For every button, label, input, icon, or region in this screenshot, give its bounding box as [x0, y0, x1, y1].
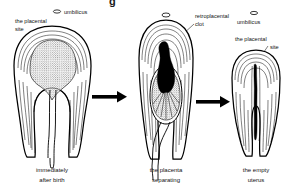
title-fragment: g: [109, 0, 116, 7]
caption-p2-line1: the placenta: [150, 167, 183, 173]
retroplacental-clot-line1: retroplacental: [195, 13, 229, 19]
umbilicus-label-text: umbilicus: [64, 9, 88, 15]
retroplacental-clot-line2: clot: [195, 21, 204, 27]
figure-canvas: g umbilicus the placental site: [0, 0, 290, 192]
placental-site-line1: the placental: [15, 18, 47, 24]
caption-p1-line1: immediately: [36, 167, 68, 173]
umbilicus-label-text-p3: umbilicus: [237, 19, 261, 25]
umbilicus-icon-p2: [162, 13, 170, 17]
placental-site-p3-line1: the placental: [235, 36, 267, 42]
caption-p2-line2: separating: [152, 177, 180, 183]
umbilicus-icon: [53, 10, 60, 13]
placental-site-line2: site: [15, 26, 24, 32]
umbilicus-icon-p3: [250, 11, 257, 14]
placental-site-p3-line2: site: [270, 44, 279, 50]
uterine-cavity-slit-p3: [254, 64, 257, 140]
caption-p3-line1: the empty: [243, 167, 269, 173]
caption-p1-line2: after birth: [39, 177, 64, 183]
caption-p3-line2: uterus: [248, 177, 265, 183]
